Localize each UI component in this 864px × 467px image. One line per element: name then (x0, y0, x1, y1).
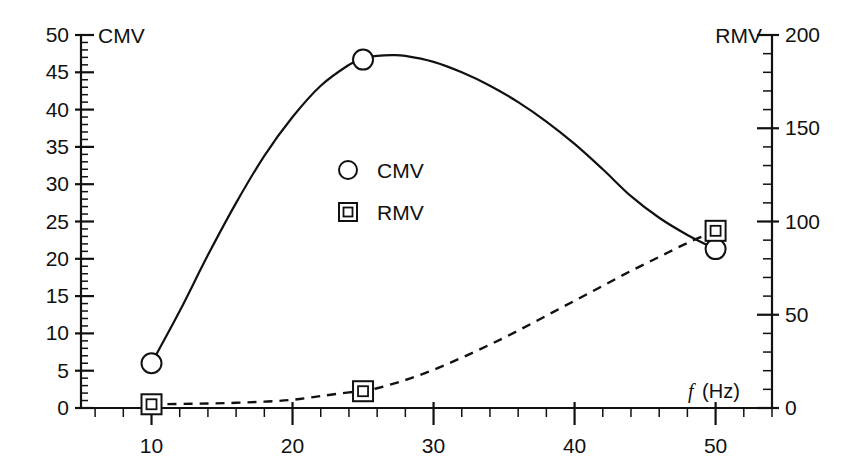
data-point-marker-circle (353, 50, 373, 70)
left-axis-tick-label: 30 (46, 172, 69, 195)
right-axis-title: RMV (715, 24, 762, 47)
x-axis-tick-labels: 1020304050 (140, 434, 727, 457)
left-axis-title: CMV (98, 24, 145, 47)
data-point-marker-circle (706, 239, 726, 259)
x-axis-tick-label: 20 (281, 434, 304, 457)
left-axis-tick-label: 15 (46, 284, 69, 307)
right-axis-tick-label: 50 (785, 303, 808, 326)
left-axis-tick-label: 45 (46, 60, 69, 83)
chart-plot-area: 05101520253035404550 050100150200 102030… (0, 0, 864, 467)
data-point-marker-square (706, 221, 726, 241)
x-axis-tick-label: 50 (704, 434, 727, 457)
right-axis-ticks (757, 35, 779, 408)
x-axis-title-unit: (Hz) (697, 380, 740, 402)
right-axis-tick-label: 200 (785, 23, 820, 46)
right-axis-tick-labels: 050100150200 (785, 23, 820, 419)
left-axis-tick-label: 40 (46, 98, 69, 121)
x-axis-title: f (Hz) (688, 380, 740, 403)
right-axis-tick-label: 150 (785, 116, 820, 139)
chart-figure: 05101520253035404550 050100150200 102030… (0, 0, 864, 467)
left-axis-tick-label: 50 (46, 23, 69, 46)
x-axis-tick-label: 40 (563, 434, 586, 457)
x-axis-ticks (95, 402, 772, 425)
left-axis-tick-label: 10 (46, 321, 69, 344)
right-axis-tick-label: 0 (785, 396, 797, 419)
left-axis-tick-label: 0 (57, 396, 69, 419)
data-point-marker-square (142, 394, 162, 414)
x-axis-tick-label: 10 (140, 434, 163, 457)
left-axis-tick-label: 5 (57, 359, 69, 382)
legend-item: CMV (339, 159, 424, 182)
left-axis-tick-label: 35 (46, 135, 69, 158)
series-cmv-markers (142, 50, 726, 374)
legend-marker-circle-icon (339, 161, 357, 179)
left-axis-tick-label: 20 (46, 247, 69, 270)
legend-item: RMV (339, 201, 424, 224)
left-axis-tick-label: 25 (46, 210, 69, 233)
x-axis-title-symbol: f (688, 380, 696, 403)
legend-label: CMV (377, 159, 424, 182)
series-rmv-curve (152, 231, 716, 404)
series-rmv-markers (142, 221, 726, 414)
left-axis-ticks (75, 35, 94, 408)
legend-marker-square-inner-icon (344, 208, 353, 217)
x-axis-tick-label: 30 (422, 434, 445, 457)
left-axis-tick-labels: 05101520253035404550 (46, 23, 69, 419)
chart-legend: CMVRMV (339, 159, 424, 224)
data-point-marker-circle (142, 353, 162, 373)
data-point-marker-square (353, 381, 373, 401)
legend-label: RMV (377, 201, 424, 224)
series-cmv-curve (152, 55, 716, 363)
right-axis-tick-label: 100 (785, 210, 820, 233)
